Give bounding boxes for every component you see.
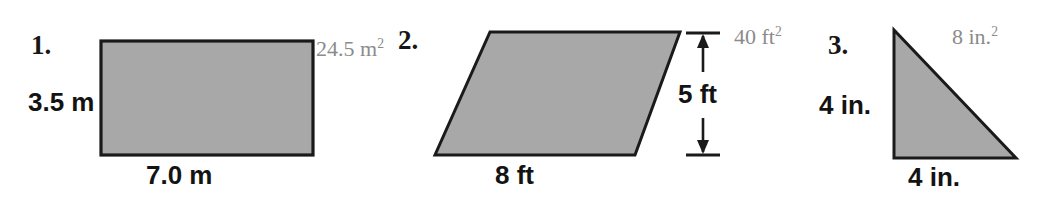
arrowhead-down-icon [697, 140, 709, 154]
rectangle-area-answer: 24.5 m2 [316, 38, 384, 60]
worksheet-figure-strip: 1. 3.5 m 7.0 m 24.5 m2 2. 5 ft 8 ft 40 f… [0, 0, 1043, 198]
problem-1: 1. 3.5 m 7.0 m 24.5 m2 [0, 0, 390, 198]
parallelogram-area-exponent: 2 [775, 24, 782, 39]
parallelogram-height-label: 5 ft [678, 81, 717, 107]
parallelogram-shape [435, 32, 680, 155]
triangle-base-label: 4 in. [908, 164, 960, 190]
right-triangle-shape [894, 30, 1016, 158]
triangle-area-exponent: 2 [991, 24, 998, 39]
parallelogram-base-label: 8 ft [495, 162, 534, 188]
parallelogram-area-answer: 40 ft2 [734, 26, 782, 48]
rectangle-area-exponent: 2 [377, 36, 384, 51]
parallelogram-area-value: 40 ft [734, 24, 775, 49]
problem-3: 3. 4 in. 4 in. 8 in.2 [815, 0, 1043, 198]
rectangle-area-value: 24.5 m [316, 36, 377, 61]
triangle-height-label: 4 in. [819, 92, 871, 118]
rectangle-base-label: 7.0 m [146, 162, 213, 188]
rectangle-height-label: 3.5 m [28, 89, 95, 115]
arrowhead-up-icon [697, 34, 709, 48]
problem-2: 2. 5 ft 8 ft 40 ft2 [390, 0, 815, 198]
triangle-area-value: 8 in. [952, 24, 991, 49]
triangle-area-answer: 8 in.2 [952, 26, 998, 48]
rectangle-shape [101, 41, 313, 155]
